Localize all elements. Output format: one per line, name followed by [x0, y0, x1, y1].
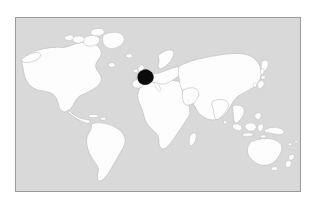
island-new-caledonia[interactable]: [288, 143, 292, 146]
landmass-scandinavia[interactable]: [158, 50, 174, 69]
island-madagascar[interactable]: [189, 133, 196, 146]
island-sulawesi[interactable]: [258, 124, 264, 132]
island-banks[interactable]: [64, 35, 73, 41]
island-iceland[interactable]: [126, 54, 133, 58]
island-borneo[interactable]: [245, 123, 256, 131]
island-sumatra[interactable]: [232, 124, 242, 131]
landmass-africa[interactable]: [138, 80, 190, 149]
island-philippines[interactable]: [255, 112, 261, 119]
world-map-svg[interactable]: [16, 18, 300, 191]
landmass-australia[interactable]: [247, 139, 282, 166]
island-tasmania[interactable]: [271, 166, 277, 170]
island-new-zealand-north[interactable]: [289, 154, 295, 160]
island-fiji[interactable]: [295, 140, 298, 143]
island-new-zealand-south[interactable]: [285, 160, 291, 167]
island-cuba[interactable]: [88, 114, 98, 117]
map-panel[interactable]: [15, 17, 301, 192]
island-timor[interactable]: [260, 135, 266, 138]
island-ireland[interactable]: [133, 69, 138, 73]
island-newfoundland[interactable]: [108, 62, 115, 67]
landmass-greenland[interactable]: [102, 32, 124, 48]
island-java[interactable]: [242, 133, 253, 137]
island-hispaniola[interactable]: [100, 117, 106, 120]
highlight-country-france[interactable]: [138, 69, 154, 84]
world-locator-map-figure: [0, 0, 321, 208]
island-new-guinea[interactable]: [264, 127, 284, 134]
landmass-south-america[interactable]: [87, 123, 126, 181]
landmass-central-america[interactable]: [68, 110, 91, 123]
island-victoria[interactable]: [72, 36, 84, 43]
island-sakhalin[interactable]: [260, 68, 264, 74]
island-baffin[interactable]: [83, 35, 99, 46]
island-hokkaido[interactable]: [261, 75, 266, 79]
landmass-southeast-asia[interactable]: [232, 105, 244, 123]
landmass-korea[interactable]: [253, 83, 257, 87]
island-ellesmere[interactable]: [90, 28, 104, 35]
island-sri-lanka[interactable]: [224, 120, 227, 124]
